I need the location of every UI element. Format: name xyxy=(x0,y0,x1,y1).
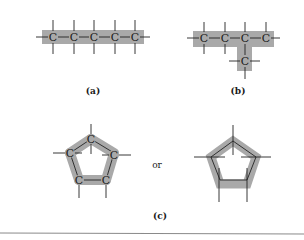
ring-highlight xyxy=(211,141,256,184)
carbon-atom: C xyxy=(221,32,229,45)
carbon-atom: C xyxy=(75,174,83,187)
panel-label-b: (b) xyxy=(231,86,246,96)
carbon-atom: C xyxy=(102,174,110,187)
panel-a-straight-chain: C C C C C (a) xyxy=(36,20,150,96)
figure-canvas: C C C C C (a) C C C C C (b) xyxy=(0,0,304,240)
carbon-atom: C xyxy=(110,149,118,162)
carbon-atom: C xyxy=(70,31,78,44)
carbon-atom: C xyxy=(241,55,249,68)
carbon-atom: C xyxy=(87,133,95,146)
carbon-atom: C xyxy=(131,31,139,44)
carbon-atom: C xyxy=(262,32,270,45)
panel-c-ring: C C C C C or (c) xyxy=(53,124,271,221)
bottom-rule xyxy=(0,233,304,234)
carbon-atom: C xyxy=(241,32,249,45)
carbon-atom: C xyxy=(66,147,74,160)
panel-label-c: (c) xyxy=(153,211,167,221)
carbon-atom: C xyxy=(90,31,98,44)
ring-skeletal xyxy=(194,125,271,202)
panel-b-branched-chain: C C C C C (b) xyxy=(187,22,280,96)
panel-label-a: (a) xyxy=(86,86,100,96)
ring-with-atoms: C C C C C xyxy=(53,124,131,198)
carbon-atom: C xyxy=(49,31,57,44)
carbon-atom: C xyxy=(111,31,119,44)
carbon-atom: C xyxy=(200,32,208,45)
or-connector: or xyxy=(152,160,162,170)
